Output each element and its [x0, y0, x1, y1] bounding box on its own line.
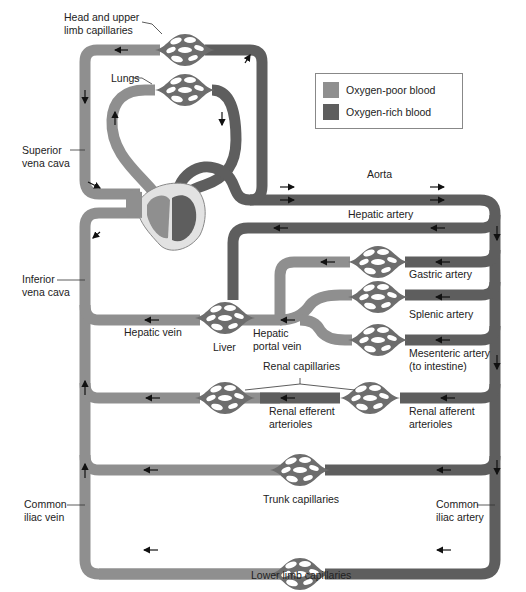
legend-item-oxygen-poor: Oxygen-poor blood	[323, 82, 435, 98]
legend: Oxygen-poor blood Oxygen-rich blood	[315, 73, 463, 129]
head-capillaries-icon	[155, 34, 215, 66]
label-hepatic-portal-vein: Hepatic portal vein	[253, 327, 301, 352]
label-gastric-artery: Gastric artery	[409, 268, 472, 281]
oxygen-poor-swatch	[323, 82, 339, 98]
legend-item-oxygen-rich: Oxygen-rich blood	[323, 104, 431, 120]
label-renal-efferent: Renal efferent arterioles	[269, 405, 335, 430]
label-lower-limb-capillaries: Lower limb capillaries	[251, 569, 351, 582]
label-renal-afferent: Renal afferent arterioles	[409, 405, 475, 430]
label-mesenteric-artery: Mesenteric artery (to intestine)	[409, 347, 490, 372]
trunk-capillaries-icon	[270, 454, 330, 486]
label-common-iliac-vein: Common iliac vein	[24, 498, 67, 523]
heart-icon	[126, 183, 205, 250]
liver-capillaries-icon	[195, 302, 255, 334]
renal-afferent-capillaries-icon	[340, 382, 400, 414]
mesenteric-capillaries-icon	[348, 324, 408, 356]
label-liver: Liver	[213, 341, 236, 354]
splenic-capillaries-icon	[348, 281, 408, 313]
label-hepatic-artery: Hepatic artery	[348, 208, 413, 221]
label-renal-capillaries: Renal capillaries	[263, 360, 340, 373]
renal-efferent-capillaries-icon	[195, 382, 255, 414]
legend-label: Oxygen-rich blood	[346, 106, 431, 118]
label-head-capillaries: Head and upper limb capillaries	[64, 11, 139, 36]
label-hepatic-vein: Hepatic vein	[124, 326, 182, 339]
label-aorta: Aorta	[367, 168, 392, 181]
label-trunk-capillaries: Trunk capillaries	[263, 493, 339, 506]
label-superior-vena-cava: Superior vena cava	[22, 144, 70, 169]
lungs-capillaries-icon	[155, 74, 215, 106]
label-lungs: Lungs	[111, 72, 140, 85]
gastric-capillaries-icon	[348, 246, 408, 278]
label-inferior-vena-cava: Inferior vena cava	[22, 273, 70, 298]
label-common-iliac-artery: Common iliac artery	[436, 498, 484, 523]
legend-label: Oxygen-poor blood	[346, 84, 435, 96]
label-splenic-artery: Splenic artery	[409, 308, 473, 321]
oxygen-rich-swatch	[323, 104, 339, 120]
